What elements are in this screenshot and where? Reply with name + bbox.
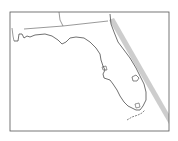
florida-keys (127, 110, 145, 120)
map-frame (10, 12, 169, 131)
biscayne-bay (135, 103, 140, 108)
lake-okeechobee (132, 75, 139, 81)
state-border-left (12, 28, 14, 41)
state-border-al-ga (59, 12, 63, 26)
track-band (109, 18, 169, 124)
state-border-fl-north (24, 21, 108, 29)
florida-map (0, 0, 178, 141)
